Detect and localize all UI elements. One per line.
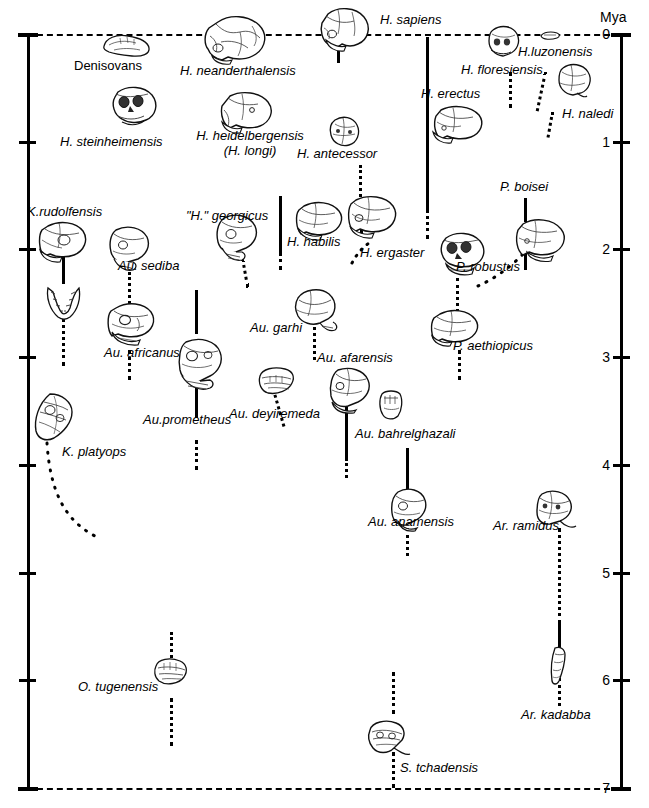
fossil-h-neanderthalensis [196, 12, 270, 70]
left-tick-6 [19, 679, 36, 682]
hominin-timeline-figure: Mya 01234567 [0, 0, 649, 808]
fossil-h-antecessor [325, 112, 363, 150]
fossil-h-luzonensis [539, 30, 561, 42]
label-h-luzonensis: H.luzonensis [518, 44, 592, 59]
label-h-sapiens: H. sapiens [380, 12, 441, 27]
range-au-garhi [313, 320, 316, 360]
label-h-antecessor: H. antecessor [297, 146, 377, 161]
fossil-h-erectus [425, 102, 487, 146]
boundary-line-7mya [27, 788, 620, 790]
range-s-tchadensis-lower [392, 752, 395, 788]
range-h-sapiens [337, 38, 340, 63]
right-tick-4 [613, 464, 630, 467]
left-tick-5 [19, 572, 36, 575]
fossil-s-tchadensis [362, 718, 414, 760]
axis-unit-label: Mya [600, 10, 626, 24]
label-au-anamensis: Au. anamensis [368, 514, 454, 529]
fossil-denisovans [100, 32, 152, 60]
right-tick-1 [613, 141, 630, 144]
label-au-deyiremeda: Au. deyiremeda [229, 406, 320, 421]
label-h-steinheimensis: H. steinheimensis [60, 134, 163, 149]
label-au-africanus: Au. africanus [104, 345, 180, 360]
fossil-h-sapiens [312, 4, 374, 56]
range-p-robustus [456, 278, 459, 318]
fossil-h-floresiensis [483, 22, 523, 60]
fossil-au-africanus [102, 298, 162, 346]
tick-label-6: 6 [592, 673, 610, 687]
label-h-ergaster: H. ergaster [360, 245, 424, 260]
label-au-sediba: Au. sediba [118, 258, 179, 273]
label-denisovans: Denisovans [74, 58, 142, 73]
label-au-prometheus: Au.prometheus [143, 412, 231, 427]
fossil-k-platyops [30, 390, 80, 446]
range-au-sediba [128, 272, 131, 316]
range-ar-kadabba-dotted [558, 678, 561, 706]
label-h-heidelbergensis-line2: (H. longi) [224, 143, 277, 158]
range-p-boisei-lower [524, 248, 527, 270]
tick-label-4: 4 [592, 458, 610, 472]
label-h-naledi: H. naledi [562, 106, 613, 121]
range-ar-kadabba [558, 620, 561, 652]
label-p-boisei: P. boisei [500, 179, 548, 194]
label-h-floresiensis: H. floresiensis [461, 62, 543, 77]
label-h-heidelbergensis-line1: H. heidelbergensis [196, 128, 304, 143]
range-au-anamensis [406, 528, 409, 556]
fossil-h-ergaster [340, 192, 400, 240]
right-axis-line [620, 34, 623, 789]
range-au-bahrelghazali [406, 448, 409, 490]
left-tick-3 [19, 356, 36, 359]
right-tick-5 [613, 572, 630, 575]
right-tick-2 [613, 248, 630, 251]
label-ar-ramidus: Ar. ramidus [493, 518, 559, 533]
fossil-k-rudolfensis [32, 218, 90, 264]
range-h-naledi [547, 112, 554, 138]
range-au-afarensis-dotted [345, 458, 348, 478]
fossil-h-naledi [551, 60, 595, 100]
range-h-ergaster [360, 198, 363, 234]
range-h-georgicus [241, 258, 249, 288]
tick-label-2: 2 [592, 242, 610, 256]
fossil-k-rudolfensis-mandible [42, 284, 84, 322]
label-o-tugenensis: O. tugenensis [78, 679, 158, 694]
range-o-tugenensis-lower [170, 698, 173, 746]
label-h-erectus: H. erectus [421, 86, 480, 101]
range-o-tugenensis-upper [170, 632, 173, 670]
label-h-neanderthalensis: H. neanderthalensis [180, 63, 296, 78]
fossil-au-afarensis [320, 364, 376, 414]
label-ar-kadabba: Ar. kadabba [521, 707, 591, 722]
left-tick-4 [19, 464, 36, 467]
range-s-tchadensis-upper [392, 672, 395, 714]
right-tick-3 [613, 356, 630, 359]
range-ar-ramidus [558, 528, 561, 624]
range-k-rudolfensis-lower [62, 318, 65, 366]
left-tick-1 [19, 141, 36, 144]
label-h-georgicus: "H." georgicus [186, 208, 268, 223]
fossil-au-bahrelghazali [376, 388, 406, 422]
boundary-line-0mya [27, 34, 620, 36]
fossil-p-boisei [509, 214, 571, 264]
label-p-robustus: P. robustus [456, 259, 520, 274]
range-au-afarensis [345, 400, 348, 458]
range-h-habilis [279, 196, 282, 252]
fossil-au-prometheus [168, 334, 230, 396]
left-axis-line [27, 34, 30, 789]
tick-label-1: 1 [592, 135, 610, 149]
label-s-tchadensis: S. tchadensis [400, 760, 478, 775]
label-k-platyops: K. platyops [62, 444, 126, 459]
range-p-aethiopicus [458, 350, 461, 380]
label-au-garhi: Au. garhi [250, 320, 302, 335]
label-au-afarensis: Au. afarensis [317, 350, 393, 365]
label-h-habilis: H. habilis [287, 234, 340, 249]
label-au-bahrelghazali: Au. bahrelghazali [355, 426, 455, 441]
range-h-habilis-dotted [279, 252, 282, 270]
fossil-h-steinheimensis [104, 82, 162, 130]
left-tick-2 [19, 248, 36, 251]
range-h-erectus-solid [426, 37, 429, 209]
label-k-rudolfensis: K.rudolfensis [27, 204, 102, 219]
range-k-rudolfensis [62, 246, 65, 284]
right-tick-6 [613, 679, 630, 682]
range-p-boisei-upper [524, 198, 527, 222]
label-p-aethiopicus: P. aethiopicus [453, 338, 533, 353]
tick-label-3: 3 [592, 350, 610, 364]
range-h-floresiensis [509, 72, 512, 108]
